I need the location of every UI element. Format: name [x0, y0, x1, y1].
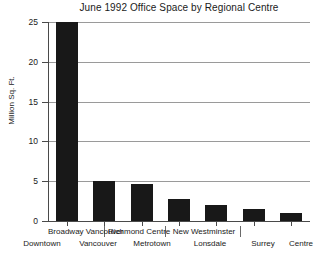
bar	[131, 184, 153, 221]
bar	[93, 181, 115, 221]
chart-title: June 1992 Office Space by Regional Centr…	[48, 2, 310, 13]
y-tick-label: 0	[16, 216, 38, 226]
bar	[280, 213, 302, 221]
x-label-new-westminster: New Westminster	[168, 227, 240, 236]
x-label-centre: Centre	[281, 239, 321, 248]
bar	[205, 205, 227, 221]
bar-chart: June 1992 Office Space by Regional Centr…	[0, 0, 322, 262]
x-label-surrey: Surrey	[243, 239, 283, 248]
x-label-vancouver: Vancouver	[72, 239, 124, 248]
label-separator	[240, 226, 241, 237]
bar	[243, 209, 265, 221]
x-label-downtown: Downtown	[14, 239, 70, 248]
bar	[168, 199, 190, 221]
x-label-richmond-centre: Richmond Centre	[108, 227, 164, 236]
x-label-metrotown: Metrotown	[126, 239, 178, 248]
y-tick-label: 25	[16, 17, 38, 27]
bar	[56, 22, 78, 221]
x-label-broadway-vancouver: Broadway Vancouver	[48, 227, 104, 236]
y-axis-title: Million Sq. Ft.	[7, 66, 16, 136]
x-axis-labels: Broadway Vancouver Richmond Centre New W…	[0, 226, 322, 260]
y-tick-label: 20	[16, 57, 38, 67]
y-tick-label: 10	[16, 136, 38, 146]
y-tick-label: 5	[16, 176, 38, 186]
x-label-lonsdale: Lonsdale	[184, 239, 236, 248]
y-tick-label: 15	[16, 97, 38, 107]
plot-area	[48, 22, 310, 221]
